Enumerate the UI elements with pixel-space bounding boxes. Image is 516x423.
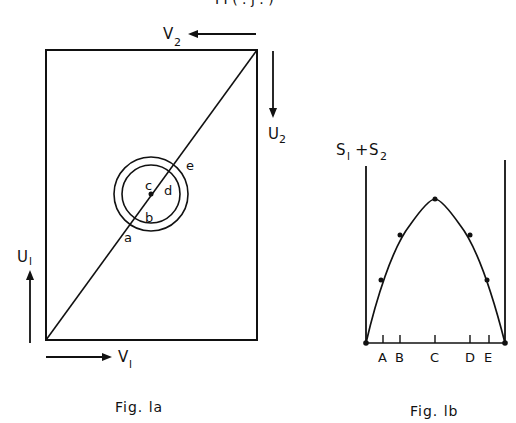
fig1a-diagram: a b c d e V 2 U 2 U I V I Fig. la (17, 25, 286, 415)
v2-label-sub: 2 (174, 36, 181, 49)
ylabel-s2: S (369, 141, 379, 159)
ylabel-plus: + (355, 140, 368, 159)
fig1b-caption: Fig. lb (410, 403, 459, 419)
tick-label-a: A (378, 350, 387, 365)
fig1a-caption: Fig. la (115, 399, 163, 415)
figure-canvas: I I ( . j . ) a b c d e V 2 U 2 U I V I (0, 0, 516, 423)
u2-arrow-icon (269, 108, 277, 118)
header-fragment: I I ( . j . ) (215, 0, 274, 7)
u1-arrow-icon (26, 270, 34, 280)
v1-label: V (118, 348, 129, 366)
u1-label-sub: I (29, 256, 32, 267)
point-peak (433, 197, 438, 202)
ylabel-s2-sub: 2 (380, 150, 387, 163)
v1-label-sub: I (129, 359, 132, 370)
label-b: b (145, 210, 153, 225)
point-start (363, 340, 369, 346)
label-d: d (164, 183, 172, 198)
v2-arrow-icon (188, 30, 198, 38)
u2-label: U (268, 125, 279, 143)
s1-s2-curve (366, 199, 505, 343)
tick-label-b: B (395, 350, 404, 365)
point-5 (485, 278, 490, 283)
tick-label-e: E (484, 350, 492, 365)
fig1b-chart: A B C D E S I + S 2 Fig. lb (336, 140, 508, 419)
point-2 (398, 233, 403, 238)
point-4 (468, 233, 473, 238)
point-end (502, 340, 508, 346)
point-1 (379, 278, 384, 283)
v2-label: V (163, 25, 174, 43)
label-a: a (124, 230, 132, 245)
ylabel-s1-sub: I (347, 151, 350, 162)
tick-label-c: C (430, 350, 439, 365)
ylabel-s1: S (336, 141, 346, 159)
u2-label-sub: 2 (279, 133, 286, 146)
u1-label: U (17, 248, 28, 266)
label-e: e (186, 158, 194, 173)
tick-label-d: D (465, 350, 475, 365)
v1-arrow-icon (102, 353, 112, 361)
label-c: c (145, 178, 152, 193)
